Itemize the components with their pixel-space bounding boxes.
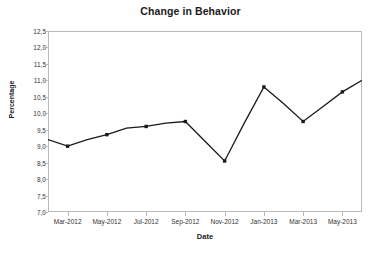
x-axis-label: Date	[48, 232, 362, 241]
chart-title: Change in Behavior	[0, 5, 381, 17]
x-axis-tick-mark	[146, 212, 147, 216]
data-point-marker	[301, 120, 304, 123]
x-axis-tick-label: May-2013	[328, 218, 357, 225]
line-series-svg	[48, 31, 362, 212]
y-axis-tick-label: 7,5	[2, 192, 46, 199]
y-axis-tick-label: 9,0	[2, 143, 46, 150]
y-axis-tick-label: 8,0	[2, 176, 46, 183]
x-axis-tick-label: Mar-2012	[54, 218, 82, 225]
series-markers	[66, 85, 344, 162]
data-point-marker	[105, 133, 108, 136]
y-axis-tick-label: 12,0	[2, 44, 46, 51]
data-point-marker	[341, 90, 344, 93]
x-axis-tick-label: Jul-2012	[134, 218, 159, 225]
data-point-marker	[66, 144, 69, 147]
data-point-marker	[262, 85, 265, 88]
data-point-marker	[144, 125, 147, 128]
chart-container: Change in Behavior Percentage 12,512,011…	[0, 0, 381, 253]
y-axis-tick-label: 9,5	[2, 126, 46, 133]
x-axis-tick-label: Nov-2012	[211, 218, 239, 225]
x-axis-tick-mark	[303, 212, 304, 216]
y-axis-tick-label: 11,5	[2, 60, 46, 67]
x-axis-tick-mark	[68, 212, 69, 216]
x-axis-tick-label: Mar-2013	[289, 218, 317, 225]
y-axis-tick-label: 11,0	[2, 77, 46, 84]
y-axis-tick-label: 10,5	[2, 93, 46, 100]
data-point-marker	[184, 120, 187, 123]
x-axis-tick-label: Sep-2012	[171, 218, 199, 225]
y-axis-tick-label: 12,5	[2, 28, 46, 35]
x-axis-tick-label: May-2012	[92, 218, 121, 225]
x-axis-tick-mark	[225, 212, 226, 216]
y-axis-tick-label: 8,5	[2, 159, 46, 166]
x-axis-tick-mark	[264, 212, 265, 216]
series-line	[48, 80, 362, 161]
y-axis-tick-label: 10,0	[2, 110, 46, 117]
data-point-marker	[223, 159, 226, 162]
x-axis-tick-mark	[107, 212, 108, 216]
x-axis-tick-mark	[342, 212, 343, 216]
x-axis-tick-mark	[185, 212, 186, 216]
x-axis-tick-label: Jan-2013	[250, 218, 277, 225]
